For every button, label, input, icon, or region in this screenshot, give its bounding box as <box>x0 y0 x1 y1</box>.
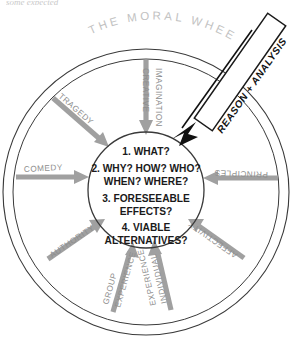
spoke-comedy: COMEDY <box>16 163 89 184</box>
moral-wheel-figure: some expected THE MORAL WHEEL CREATIVE I… <box>0 0 294 347</box>
spoke-label-principles: PRINCIPLES <box>214 168 268 179</box>
page-title-text: THE MORAL WHEEL <box>0 0 239 43</box>
hub-line-7: ALTERNATIVES? <box>105 235 188 246</box>
page-title: THE MORAL WHEEL <box>0 0 239 43</box>
spoke-creative-imagination: CREATIVE IMAGINATION <box>139 60 163 135</box>
hub-line-3: WHEN? WHERE? <box>104 176 188 187</box>
hub-line-4: 3. FORESEEABLE <box>102 193 190 204</box>
spoke-principles: PRINCIPLES <box>203 168 278 185</box>
spoke-tragedy: TRAGEDY <box>53 92 109 147</box>
spoke-label-imagination: IMAGINATION <box>154 68 163 127</box>
reason-arrowhead <box>172 122 198 146</box>
spoke-affectivity: AFFECTIVITY <box>187 219 244 260</box>
spoke-label-affectivity: AFFECTIVITY <box>187 219 240 260</box>
spoke-label-comedy: COMEDY <box>24 163 63 174</box>
hub-line-1: 1. WHAT? <box>122 146 169 157</box>
hub-line-6: 4. VIABLE <box>122 222 171 233</box>
spoke-group-experience: GROUP EXPERIENCE <box>101 242 139 312</box>
hub-line-5: EFFECTS? <box>120 206 173 217</box>
spoke-label-creative: CREATIVE <box>141 68 150 112</box>
wheel-diagram: THE MORAL WHEEL CREATIVE IMAGINATION PRI… <box>0 0 294 347</box>
hub-line-2: 2. WHY? HOW? WHO? <box>91 163 200 174</box>
spoke-authority: AUTHORITY <box>48 219 105 260</box>
spoke-arrowhead <box>74 170 89 184</box>
spoke-individual-experience: INDIVIDUAL EXPERIENCE <box>136 240 171 310</box>
spoke-label-authority: AUTHORITY <box>48 223 96 259</box>
